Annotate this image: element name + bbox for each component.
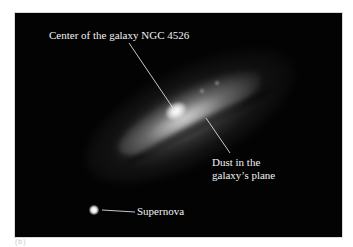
panel-tag: (b): [15, 238, 27, 245]
dust-leader-line: [206, 118, 230, 153]
galaxy-photo: Center of the galaxy NGC 4526 Dust in th…: [15, 13, 342, 237]
center-leader-line: [129, 43, 175, 111]
supernova-leader-line: [102, 210, 135, 212]
center-label: Center of the galaxy NGC 4526: [49, 29, 189, 42]
supernova-label: Supernova: [137, 205, 184, 218]
dust-label-line2: galaxy’s plane: [212, 169, 275, 182]
leader-lines: [15, 13, 342, 237]
dust-label-line1: Dust in the: [212, 156, 275, 169]
dust-label: Dust in the galaxy’s plane: [212, 156, 275, 182]
